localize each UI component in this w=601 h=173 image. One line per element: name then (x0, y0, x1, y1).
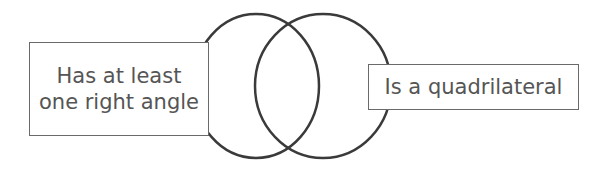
set-label-text: Is a quadrilateral (385, 74, 563, 100)
set-label-right-angle: Has at least one right angle (29, 42, 209, 136)
set-label-text: Has at least one right angle (36, 63, 202, 115)
set-label-quadrilateral: Is a quadrilateral (368, 64, 579, 110)
